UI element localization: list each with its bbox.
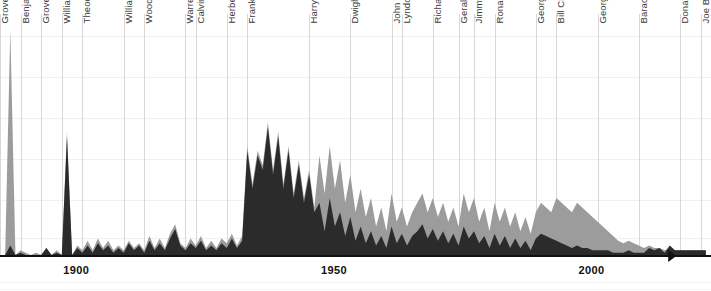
- president-label: Richard Nixon: [432, 0, 442, 24]
- plot-area: Grover ClevelandBenjamin HarrisonGrover …: [0, 0, 711, 256]
- president-label: Ronald Reagan: [494, 0, 504, 24]
- president-label: Gerald Ford: [458, 0, 468, 24]
- x-tick-label: 1900: [63, 264, 89, 276]
- president-label: Herbert Hoover: [226, 0, 236, 24]
- president-label: Calvin Coolidge: [195, 0, 205, 24]
- chart-root: Grover ClevelandBenjamin HarrisonGrover …: [0, 0, 711, 291]
- president-label: Warren G. Harding: [185, 0, 195, 24]
- area-series-back: [0, 30, 706, 255]
- president-label: George W. Bush: [597, 0, 607, 24]
- president-label: Donald Trump: [680, 0, 690, 24]
- president-label: George H. W. Bush: [535, 0, 545, 24]
- president-label: Barack Obama: [638, 0, 648, 24]
- gridline: [0, 289, 711, 290]
- president-label: Jimmy Carter: [474, 0, 484, 24]
- president-label: Dwight D. Eisenhower: [350, 0, 360, 24]
- president-label: Bill Clinton: [556, 0, 566, 24]
- x-tick-label: 1950: [321, 264, 347, 276]
- president-label: William Howard Taft: [123, 0, 133, 24]
- president-label: Franklin D. Roosevelt: [247, 0, 257, 24]
- series-svg: [0, 0, 711, 256]
- area-series-layer: [0, 0, 711, 256]
- president-label: Grover Cleveland: [0, 0, 9, 24]
- gridline: [0, 282, 711, 283]
- president-label: John F. Kennedy: [391, 0, 401, 24]
- x-axis-line: [0, 255, 711, 257]
- president-label: Theodore Roosevelt: [82, 0, 92, 24]
- x-axis-arrow-icon: [664, 250, 676, 262]
- president-label: Harry S Truman: [309, 0, 319, 24]
- president-label: Joe Biden: [700, 0, 710, 24]
- president-label: Woodrow Wilson: [144, 0, 154, 24]
- president-label: Benjamin Harrison: [20, 0, 30, 24]
- x-tick-label: 2000: [579, 264, 605, 276]
- president-label: William McKinley: [61, 0, 71, 24]
- president-label: Grover Cleveland: [41, 0, 51, 24]
- president-label: Lyndon B. Johnson: [401, 0, 411, 24]
